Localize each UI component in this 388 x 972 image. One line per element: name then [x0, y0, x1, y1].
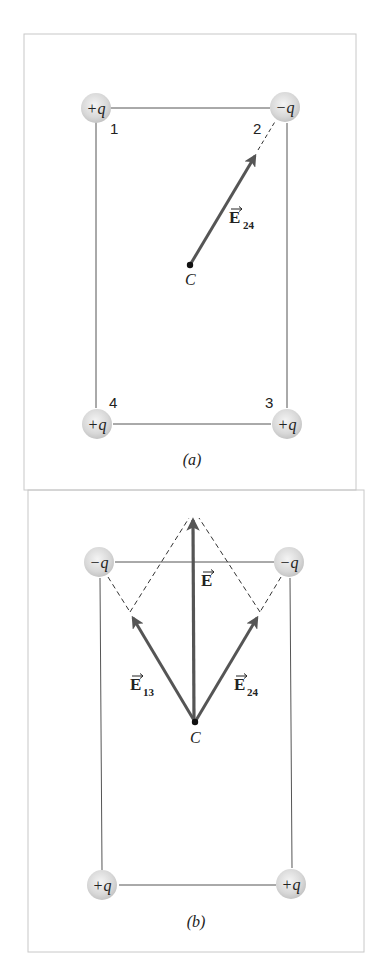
charge-top-right: −q [274, 547, 304, 577]
vector-e13 [133, 618, 195, 722]
vector-e-net [193, 520, 194, 722]
charge-bottom-left: +q [87, 870, 117, 900]
charge-bottom-right: +q [276, 869, 306, 899]
vector-e-net-label: E [201, 570, 214, 591]
electric-field-square-diagram: E 24 C +q 1 −q 2 +q 3 +q 4 (a) [0, 0, 388, 972]
center-label: C [185, 271, 196, 288]
svg-text:+q: +q [282, 876, 301, 894]
svg-text:+q: +q [87, 100, 106, 118]
svg-text:−q: −q [90, 554, 109, 572]
vector-e24-label: E 24 [229, 207, 255, 232]
panel-b: E 13 E 24 E C −q −q +q +q [84, 518, 306, 931]
charge-2: −q [270, 92, 300, 122]
svg-text:+q: +q [93, 877, 112, 895]
svg-text:E: E [234, 675, 245, 694]
svg-text:E: E [201, 571, 212, 590]
vector-e24-label: E 24 [234, 674, 259, 699]
charge-index-4: 4 [109, 394, 117, 411]
svg-text:13: 13 [143, 686, 155, 698]
svg-text:E: E [130, 675, 141, 694]
charge-top-left: −q [84, 547, 114, 577]
svg-text:−q: −q [280, 554, 299, 572]
charge-3: +q [272, 409, 302, 439]
charge-index-3: 3 [265, 394, 273, 411]
panel-a-caption: (a) [183, 451, 202, 469]
svg-text:+q: +q [278, 416, 297, 434]
svg-text:24: 24 [247, 686, 259, 698]
svg-text:24: 24 [243, 219, 255, 231]
center-label: C [190, 729, 201, 746]
vector-e24 [195, 618, 257, 722]
charge-4: +q [82, 409, 112, 439]
svg-text:+q: +q [88, 416, 107, 434]
svg-text:E: E [229, 208, 240, 227]
figure-frame [24, 34, 364, 952]
svg-text:−q: −q [276, 99, 295, 117]
charge-1: +q [81, 93, 111, 123]
center-point-c [187, 262, 193, 268]
panel-b-caption: (b) [187, 913, 206, 931]
center-point-c [192, 719, 198, 725]
charge-index-2: 2 [253, 120, 261, 137]
vector-e24 [190, 156, 255, 265]
charge-index-1: 1 [110, 120, 118, 137]
panel-a: E 24 C +q 1 −q 2 +q 3 +q 4 (a) [81, 92, 302, 469]
vector-e13-label: E 13 [130, 674, 155, 699]
